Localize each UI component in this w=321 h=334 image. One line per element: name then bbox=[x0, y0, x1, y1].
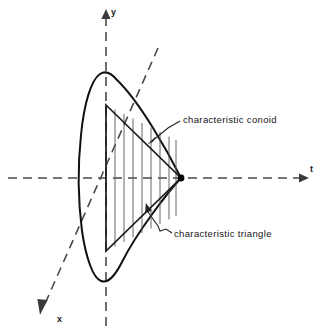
y-axis-label: y bbox=[111, 8, 116, 17]
x-axis-line bbox=[44, 48, 158, 306]
conoid-leader bbox=[148, 121, 181, 145]
apex-point bbox=[178, 175, 185, 182]
x-axis-label: x bbox=[57, 315, 62, 324]
characteristic-conoid-shape bbox=[79, 72, 181, 281]
x-axis-arrowhead bbox=[37, 299, 47, 315]
y-axis-arrowhead bbox=[101, 9, 110, 19]
conoid-outline bbox=[79, 72, 181, 281]
figure-canvas: y t x characteristic conoid characterist… bbox=[0, 0, 321, 334]
characteristic-conoid-label: characteristic conoid bbox=[183, 115, 277, 125]
axes-group bbox=[8, 9, 309, 326]
t-axis-label: t bbox=[310, 165, 313, 174]
t-axis-arrowhead bbox=[299, 173, 309, 182]
diagram-svg bbox=[0, 0, 321, 334]
conoid-leader-line bbox=[152, 121, 180, 141]
characteristic-triangle-label: characteristic triangle bbox=[174, 229, 272, 239]
conoid-leader-arrowhead bbox=[148, 136, 156, 144]
